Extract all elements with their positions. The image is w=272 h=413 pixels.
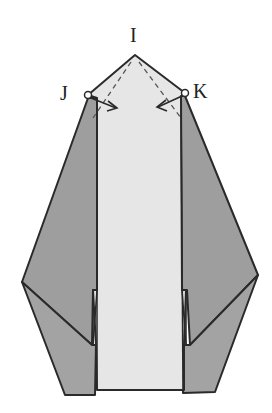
origami-diagram: I J K [0, 0, 272, 413]
label-k: K [193, 81, 207, 101]
center-light-panel [88, 55, 186, 390]
label-j: J [60, 83, 68, 103]
corner-k-marker [182, 90, 189, 97]
label-i: I [130, 25, 137, 45]
corner-j-marker [85, 92, 92, 99]
origami-figure [0, 0, 272, 413]
